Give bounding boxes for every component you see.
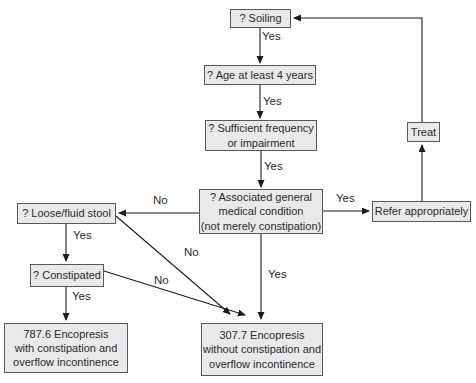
edge-label-medical-yes-right: Yes <box>336 192 355 204</box>
edge-label-age-yes: Yes <box>263 95 282 107</box>
edge-label-medical-yes-down: Yes <box>268 268 287 280</box>
node-loose-label: ? Loose/fluid stool <box>22 206 111 220</box>
edge-label-constipated-yes: Yes <box>72 290 91 302</box>
node-constipated: ? Constipated <box>30 264 104 287</box>
edge-constipated-dx307 <box>104 271 245 315</box>
node-sufficient-frequency: ? Sufficient frequency or impairment <box>205 120 317 151</box>
edge-label-loose-yes: Yes <box>73 229 92 241</box>
edge-label-constipated-no: No <box>154 274 169 286</box>
node-diagnosis-787-6: 787.6 Encopresis with constipation and o… <box>4 323 128 373</box>
node-treat-label: Treat <box>411 125 436 139</box>
node-associated-medical-condition: ? Associated general medical condition (… <box>199 189 323 234</box>
node-refer-label: Refer appropriately <box>375 204 469 218</box>
node-age-at-least-4-years: ? Age at least 4 years <box>204 65 316 85</box>
node-refer-appropriately: Refer appropriately <box>372 201 471 222</box>
node-soiling: ? Soiling <box>230 9 291 28</box>
edge-label-loose-no: No <box>184 246 199 258</box>
node-treat: Treat <box>407 122 440 142</box>
node-loose-fluid-stool: ? Loose/fluid stool <box>17 203 116 224</box>
node-dx787-label: 787.6 Encopresis with constipation and o… <box>13 327 119 370</box>
node-diagnosis-307-7: 307.7 Encopresis without constipation an… <box>201 323 323 376</box>
edge-label-frequency-yes: Yes <box>264 160 283 172</box>
node-age-label: ? Age at least 4 years <box>207 68 313 82</box>
node-soiling-label: ? Soiling <box>239 11 281 25</box>
edge-label-medical-no: No <box>153 194 168 206</box>
flowchart: ? Soiling ? Age at least 4 years ? Suffi… <box>0 0 476 383</box>
node-constipated-label: ? Constipated <box>33 268 101 282</box>
node-dx307-label: 307.7 Encopresis without constipation an… <box>203 328 321 371</box>
node-medical-label: ? Associated general medical condition (… <box>201 190 321 233</box>
edge-label-soiling-yes: Yes <box>262 30 281 42</box>
node-frequency-label: ? Sufficient frequency or impairment <box>208 121 314 150</box>
